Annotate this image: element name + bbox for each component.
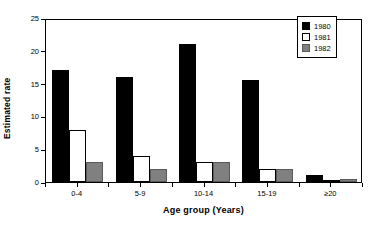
legend-swatch <box>302 44 310 52</box>
y-tick-mark <box>41 150 45 151</box>
y-tick-mark <box>41 19 45 20</box>
legend-label: 1981 <box>314 33 331 42</box>
bar <box>133 156 150 182</box>
x-tick-label: 0-4 <box>71 189 82 198</box>
y-axis-title: Estimated rate <box>2 58 16 158</box>
y-tick-label: 25 <box>31 14 39 23</box>
x-axis-tick <box>45 183 46 187</box>
y-tick-label: 20 <box>31 47 39 56</box>
y-tick-label: 5 <box>35 145 39 154</box>
x-tick-label: 5-9 <box>135 189 146 198</box>
bar <box>86 162 103 182</box>
legend-label: 1980 <box>314 22 331 31</box>
legend-item: 1982 <box>302 43 331 53</box>
bar <box>69 130 86 182</box>
x-axis-tick <box>299 183 300 187</box>
bar <box>116 77 133 182</box>
bar <box>213 162 230 182</box>
bar <box>196 162 213 182</box>
bar <box>150 169 167 182</box>
y-tick-label: 15 <box>31 80 39 89</box>
bar <box>179 44 196 182</box>
x-tick-label: ≥20 <box>324 189 336 198</box>
bar <box>306 175 323 182</box>
x-axis-tick <box>172 183 173 187</box>
x-axis-title: Age group (Years) <box>45 205 362 215</box>
chart-legend: 198019811982 <box>297 16 337 58</box>
x-tick-label: 10-14 <box>194 189 213 198</box>
y-tick-mark <box>41 84 45 85</box>
bar <box>242 80 259 182</box>
x-axis-tick <box>267 183 268 187</box>
y-tick-label: 0 <box>35 178 39 187</box>
y-tick-mark <box>41 117 45 118</box>
x-axis-tick <box>330 183 331 187</box>
bar-chart: Estimated rate 0510152025 0-45-910-1415-… <box>0 0 379 230</box>
bar-group <box>46 20 109 182</box>
bar <box>323 180 340 182</box>
legend-swatch <box>302 22 310 30</box>
legend-item: 1980 <box>302 21 331 31</box>
x-axis-tick <box>204 183 205 187</box>
y-tick-mark <box>41 51 45 52</box>
x-axis-tick <box>140 183 141 187</box>
x-axis-tick <box>362 183 363 187</box>
bar-group <box>236 20 299 182</box>
y-tick-label: 10 <box>31 112 39 121</box>
legend-item: 1981 <box>302 32 331 42</box>
bar <box>52 70 69 182</box>
legend-label: 1982 <box>314 44 331 53</box>
bar <box>340 179 357 182</box>
x-axis-tick <box>77 183 78 187</box>
x-axis-tick <box>235 183 236 187</box>
legend-swatch <box>302 33 310 41</box>
bar <box>276 169 293 182</box>
bar <box>259 169 276 182</box>
bar-group <box>109 20 172 182</box>
bar-group <box>173 20 236 182</box>
x-tick-label: 15-19 <box>257 189 276 198</box>
x-axis-tick <box>108 183 109 187</box>
